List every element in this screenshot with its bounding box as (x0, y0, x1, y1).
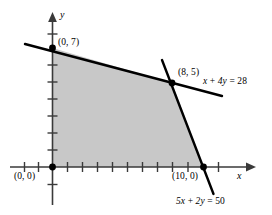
eq1-rhs: 28 (237, 76, 247, 86)
eq2-rhs: 50 (215, 196, 225, 206)
vertex-dot-8-5 (169, 80, 176, 87)
vertex-label-8-5: (8, 5) (178, 68, 199, 78)
y-axis-label: y (60, 10, 65, 20)
eq1-term2: 4y (218, 76, 227, 86)
vertex-label-0-7: (0, 7) (58, 38, 79, 48)
vertex-label-10-0: (10, 0) (172, 172, 198, 182)
vertex-dot-10-0 (200, 164, 207, 171)
eq2-equals: = (205, 196, 215, 206)
eq1-equals: = (227, 76, 237, 86)
equation-label-x-plus-4y-28: x + 4y = 28 (203, 77, 247, 87)
eq2-operator: + (185, 196, 195, 206)
vertex-dot-0-7 (49, 45, 56, 52)
equation-label-5x-plus-2y-50: 5x + 2y = 50 (176, 197, 225, 207)
vertex-dot-origin (49, 164, 56, 171)
eq2-term2: 2y (196, 196, 205, 206)
x-axis-label: x (237, 171, 242, 181)
eq2-term1: 5x (176, 196, 185, 206)
coordinate-plot (0, 0, 272, 215)
vertex-label-origin: (0, 0) (14, 172, 35, 182)
graph-figure: (0, 7) (8, 5) (10, 0) (0, 0) x y x + 4y … (0, 0, 272, 215)
eq1-operator: + (207, 76, 217, 86)
